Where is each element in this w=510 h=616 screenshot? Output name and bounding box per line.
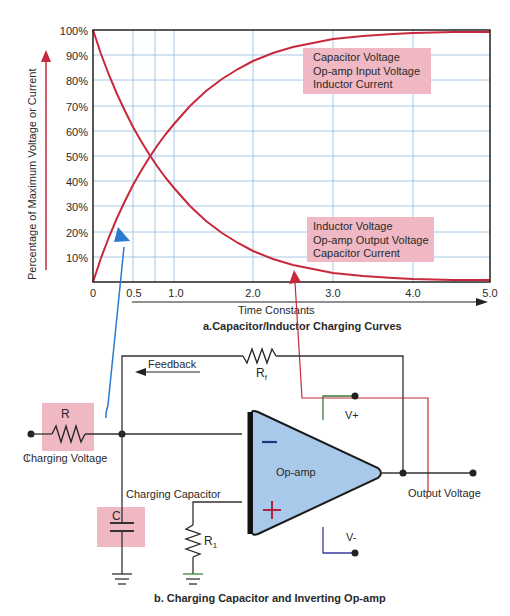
svg-text:80%: 80% bbox=[66, 75, 88, 87]
r-label: R bbox=[61, 407, 70, 421]
rf-label: Rf bbox=[256, 366, 268, 382]
x-axis-ticks: 0 0.5 1.0 2.0 3.0 4.0 5.0 bbox=[90, 287, 498, 299]
opamp-label: Op-amp bbox=[276, 466, 316, 478]
c-label: C bbox=[112, 509, 121, 523]
x-axis-label: Time Constants bbox=[238, 304, 315, 316]
svg-text:40%: 40% bbox=[66, 176, 88, 188]
falling-label-1: Inductor Voltage bbox=[313, 220, 393, 232]
capacitor-c-highlight bbox=[97, 507, 145, 547]
ground-icon-capacitor bbox=[112, 574, 132, 584]
chart-title: a.Capacitor/Inductor Charging Curves bbox=[203, 320, 402, 332]
svg-text:5.0: 5.0 bbox=[482, 287, 497, 299]
r1-label: R1 bbox=[204, 534, 218, 550]
resistor-r1-icon bbox=[186, 525, 200, 557]
feedback-arrowhead-icon bbox=[135, 368, 146, 376]
svg-text:30%: 30% bbox=[66, 201, 88, 213]
rising-label-2: Op-amp Input Voltage bbox=[313, 65, 420, 77]
svg-text:90%: 90% bbox=[66, 50, 88, 62]
output-terminal bbox=[470, 470, 477, 477]
svg-text:10%: 10% bbox=[66, 252, 88, 264]
falling-label-3: Capacitor Current bbox=[313, 247, 400, 259]
svg-text:3.0: 3.0 bbox=[325, 287, 340, 299]
svg-text:0: 0 bbox=[90, 287, 96, 299]
charging-capacitor-label: Charging Capacitor bbox=[126, 488, 221, 500]
figure: Capacitor Voltage Op-amp Input Voltage I… bbox=[0, 0, 510, 616]
circuit bbox=[28, 349, 477, 584]
svg-text:100%: 100% bbox=[60, 25, 88, 37]
vminus-label: V- bbox=[346, 531, 357, 543]
y-axis-arrowhead-icon bbox=[41, 50, 51, 62]
svg-text:0.5: 0.5 bbox=[126, 287, 141, 299]
rising-label-1: Capacitor Voltage bbox=[313, 51, 400, 63]
charging-voltage-label: Charging Voltage bbox=[23, 452, 107, 464]
svg-text:20%: 20% bbox=[66, 227, 88, 239]
blue-pointer-line bbox=[106, 247, 124, 418]
feedback-label: Feedback bbox=[148, 358, 197, 370]
resistor-rf-icon bbox=[243, 349, 276, 363]
svg-text:60%: 60% bbox=[66, 126, 88, 138]
output-voltage-label: Output Voltage bbox=[408, 487, 481, 499]
chart: Capacitor Voltage Op-amp Input Voltage I… bbox=[26, 25, 498, 332]
falling-label-2: Op-amp Output Voltage bbox=[313, 234, 429, 246]
circuit-title: b. Charging Capacitor and Inverting Op-a… bbox=[154, 592, 386, 604]
svg-text:50%: 50% bbox=[66, 151, 88, 163]
svg-text:1.0: 1.0 bbox=[168, 287, 183, 299]
svg-text:2.0: 2.0 bbox=[245, 287, 260, 299]
svg-text:4.0: 4.0 bbox=[405, 287, 420, 299]
x-axis-arrowhead-icon bbox=[476, 298, 488, 306]
blue-pointer-arrowhead-icon bbox=[114, 227, 130, 242]
y-axis-label: Percentage of Maximum Voltage or Current bbox=[26, 68, 38, 280]
vplus-label: V+ bbox=[345, 409, 359, 421]
ground-icon-r1 bbox=[183, 574, 203, 584]
svg-text:70%: 70% bbox=[66, 101, 88, 113]
rising-label-3: Inductor Current bbox=[313, 78, 392, 90]
red-pointer-arrowhead-icon bbox=[289, 270, 301, 284]
vminus-terminal bbox=[352, 550, 359, 557]
junction-node-output bbox=[400, 470, 407, 477]
vplus-terminal bbox=[352, 393, 359, 400]
y-axis-ticks: 100% 90% 80% 70% 60% 50% 40% 30% 20% 10% bbox=[60, 25, 88, 264]
